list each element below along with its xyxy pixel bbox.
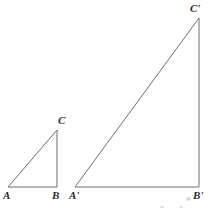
- large-triangle-shape: [75, 18, 199, 187]
- small-triangle-outline: [8, 130, 57, 187]
- scan-speck: [186, 197, 191, 201]
- vertex-label-a-prime: A': [69, 190, 79, 201]
- vertex-label-a: A: [3, 190, 10, 201]
- small-triangle-shape: [8, 130, 57, 187]
- geometry-figure: A B C A' B' C': [0, 0, 217, 211]
- vertex-label-b-prime: B': [193, 190, 203, 201]
- scan-speck: [179, 206, 183, 208]
- triangles-canvas: [0, 0, 217, 211]
- vertex-label-c: C: [58, 115, 65, 126]
- vertex-label-c-prime: C': [190, 3, 200, 14]
- large-triangle-outline: [75, 18, 199, 187]
- vertex-label-b: B: [52, 190, 59, 201]
- scan-speck: [160, 206, 164, 208]
